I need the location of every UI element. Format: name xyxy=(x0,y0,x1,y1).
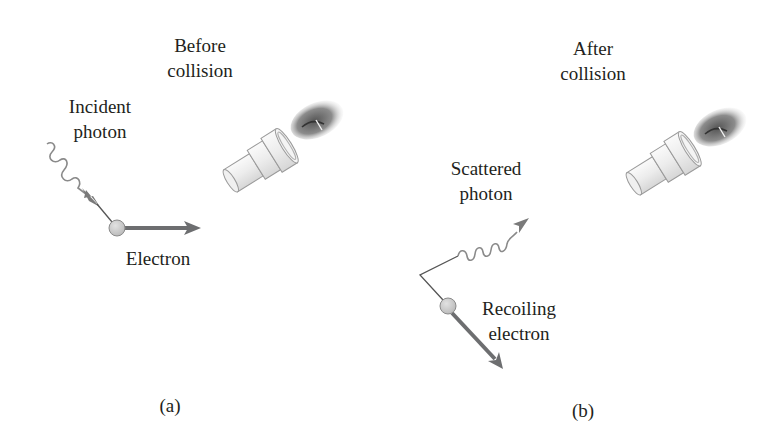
title-line: After xyxy=(543,36,643,61)
observer-eye-icon xyxy=(687,100,752,154)
recoiling-electron-label: Recoiling electron xyxy=(469,296,569,346)
microscope-icon xyxy=(217,126,302,200)
caption-b: (b) xyxy=(563,398,603,423)
scattered-photon-wave xyxy=(458,232,517,260)
electron-label: Electron xyxy=(108,246,208,271)
label-line: Recoiling xyxy=(469,296,569,321)
electron-icon xyxy=(109,220,125,236)
label-line: electron xyxy=(469,321,569,346)
compton-scattering-diagram xyxy=(0,0,777,440)
title-line: collision xyxy=(150,58,250,83)
title-line: collision xyxy=(543,61,643,86)
incident-photon-wave xyxy=(47,143,86,194)
before-collision-title: Before collision xyxy=(150,33,250,83)
scattered-photon-label: Scattered photon xyxy=(431,156,541,206)
microscope-icon xyxy=(620,129,705,203)
recoiling-electron-icon xyxy=(440,298,456,314)
title-line: Before xyxy=(150,33,250,58)
observer-eye-icon xyxy=(284,93,349,147)
incident-photon-label: Incident photon xyxy=(50,94,150,144)
label-line: photon xyxy=(431,181,541,206)
scattered-photon-arrowhead xyxy=(513,218,529,233)
after-collision-title: After collision xyxy=(543,36,643,86)
incoming-path-line xyxy=(420,256,458,300)
label-line: Scattered xyxy=(431,156,541,181)
label-line: Incident xyxy=(50,94,150,119)
label-line: photon xyxy=(50,119,150,144)
caption-a: (a) xyxy=(150,393,190,418)
